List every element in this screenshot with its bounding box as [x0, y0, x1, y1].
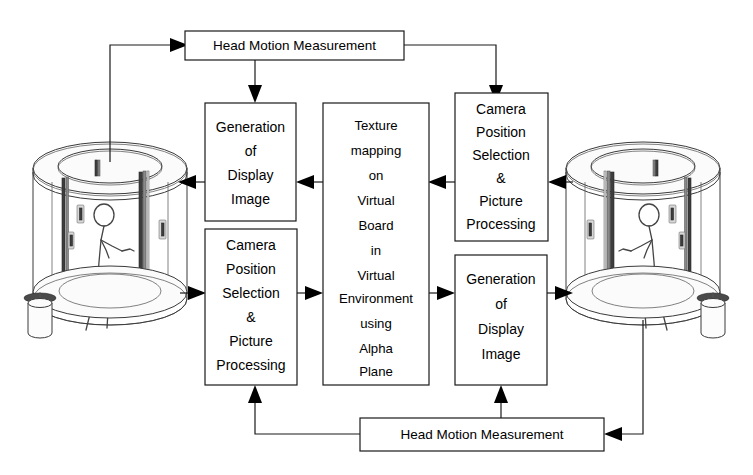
box-camera-position-selection-left[interactable]: Camera Position Selection & Picture Proc…	[205, 229, 297, 385]
head-motion-bottom-label: Head Motion Measurement	[401, 427, 564, 442]
flow-diagram: Head Motion Measurement Generation of Di…	[0, 0, 753, 475]
cam-right-line-4: &	[496, 170, 506, 186]
booth-camera-module	[679, 232, 685, 249]
gen-right-line-1: Generation	[466, 271, 535, 287]
box-head-motion-measurement-top[interactable]: Head Motion Measurement	[185, 31, 404, 60]
gen-left-line-3: Display	[228, 167, 274, 183]
gen-right-line-2: of	[495, 296, 507, 312]
box-camera-position-selection-right[interactable]: Camera Position Selection & Picture Proc…	[455, 93, 548, 241]
diagram-canvas: Head Motion Measurement Generation of Di…	[0, 0, 753, 475]
cam-right-line-2: Position	[476, 124, 526, 140]
cam-left-line-5: Picture	[229, 333, 273, 349]
booth-camera-module	[669, 205, 676, 223]
tex-line-6: in	[371, 243, 381, 258]
cam-right-line-3: Selection	[472, 147, 530, 163]
tex-line-11: Plane	[359, 364, 393, 379]
gen-right-line-4: Image	[482, 346, 521, 362]
booth-camera-module	[77, 205, 84, 223]
gen-left-line-4: Image	[231, 191, 270, 207]
head-motion-top-label: Head Motion Measurement	[213, 38, 376, 53]
cylindrical-display-booth-left	[24, 142, 187, 338]
gen-left-line-2: of	[245, 143, 257, 159]
tex-line-10: Alpha	[359, 341, 393, 356]
tex-line-9: using	[360, 316, 392, 331]
booth-base-unit	[697, 292, 729, 338]
cam-left-line-3: Selection	[222, 285, 280, 301]
booth-camera-module	[587, 220, 594, 239]
box-generation-of-display-image-right[interactable]: Generation of Display Image	[455, 255, 547, 385]
cam-right-line-5: Picture	[479, 193, 523, 209]
gen-right-line-3: Display	[478, 321, 524, 337]
cam-left-line-2: Position	[226, 261, 276, 277]
box-texture-mapping-center[interactable]: Texture mapping on Virtual Board in Virt…	[323, 103, 429, 385]
booth-camera-module	[68, 232, 74, 249]
tex-line-5: Board	[358, 218, 393, 233]
tex-line-7: Virtual	[357, 268, 394, 283]
booth-base-unit	[24, 292, 56, 338]
cam-right-line-6: Processing	[466, 216, 535, 232]
tex-line-2: mapping	[351, 143, 402, 158]
cam-left-line-4: &	[246, 309, 256, 325]
tex-line-8: Environment	[339, 291, 413, 306]
cam-left-line-6: Processing	[216, 357, 285, 373]
box-generation-of-display-image-left[interactable]: Generation of Display Image	[205, 103, 296, 221]
cylindrical-display-booth-right	[566, 142, 729, 338]
tex-line-1: Texture	[354, 118, 397, 133]
box-head-motion-measurement-bottom[interactable]: Head Motion Measurement	[360, 418, 604, 451]
gen-left-line-1: Generation	[216, 119, 285, 135]
cam-right-line-1: Camera	[476, 101, 526, 117]
cam-left-line-1: Camera	[226, 237, 276, 253]
tex-line-3: on	[369, 168, 384, 183]
tex-line-4: Virtual	[357, 193, 394, 208]
booth-camera-module	[159, 220, 166, 239]
